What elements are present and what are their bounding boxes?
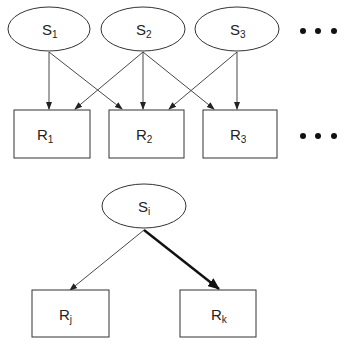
source-node-s2: S2: [101, 7, 185, 51]
ellipsis-sources: [300, 28, 337, 34]
edge-si-rk-bold: [144, 230, 219, 289]
ellipsis-receivers: [300, 133, 337, 139]
receiver-node-r2: R2: [109, 110, 184, 158]
source-node-s1: S1: [8, 7, 90, 51]
top-edges: [49, 52, 237, 109]
receiver-node-r1: R1: [14, 110, 90, 158]
receiver-node-r3: R3: [203, 110, 277, 158]
receiver-node-rj: Rj: [32, 290, 109, 337]
source-node-s3: S3: [195, 7, 279, 51]
edge-si-rj: [70, 230, 144, 290]
receiver-node-rk: Rk: [180, 290, 256, 337]
diagram: S1 S2 S3 R1 R2 R3 Si Rj Rk: [0, 0, 348, 349]
source-node-si: Si: [102, 184, 186, 228]
